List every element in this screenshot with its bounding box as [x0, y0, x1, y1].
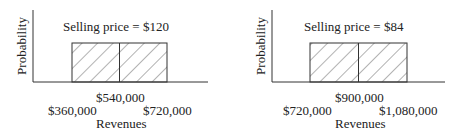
x-axis-label: Revenues [96, 117, 147, 130]
x-axis-label: Revenues [335, 117, 386, 130]
chart-title: Selling price = $120 [63, 20, 169, 33]
y-axis-label: Probability [253, 17, 269, 75]
tick-label-high: $1,080,000 [379, 104, 438, 117]
tick-label-mid: $540,000 [96, 91, 145, 104]
tick-label-high: $720,000 [143, 104, 192, 117]
tick-label-low: $360,000 [48, 104, 97, 117]
tick-label-mid: $900,000 [335, 91, 384, 104]
chart-left: Probability Selling price = $120 $540,00… [0, 0, 230, 135]
y-axis-label: Probability [14, 17, 30, 75]
tick-label-low: $720,000 [283, 104, 332, 117]
chart-title: Selling price = $84 [304, 20, 403, 33]
chart-right: Probability Selling price = $84 $900,000… [230, 0, 460, 135]
